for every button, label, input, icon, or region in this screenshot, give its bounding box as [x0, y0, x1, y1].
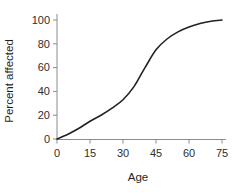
y-tick-label: 40: [38, 85, 50, 97]
y-tick-label: 100: [32, 14, 50, 26]
y-tick-label: 20: [38, 109, 50, 121]
y-tick-label: 0: [44, 133, 50, 145]
x-tick-label: 30: [117, 147, 129, 159]
x-tick-label: 60: [183, 147, 195, 159]
chart-figure: 02040608010001530456075 Age Percent affe…: [0, 0, 236, 194]
x-tick-label: 15: [84, 147, 96, 159]
data-curve: [57, 20, 222, 139]
y-axis-label: Percent affected: [3, 39, 15, 123]
x-tick-label: 75: [216, 147, 228, 159]
x-axis-label: Age: [128, 171, 148, 183]
line-chart-canvas: 02040608010001530456075 Age Percent affe…: [0, 0, 236, 194]
x-tick-label: 0: [54, 147, 60, 159]
y-tick-label: 80: [38, 38, 50, 50]
y-tick-label: 60: [38, 61, 50, 73]
x-tick-label: 45: [150, 147, 162, 159]
